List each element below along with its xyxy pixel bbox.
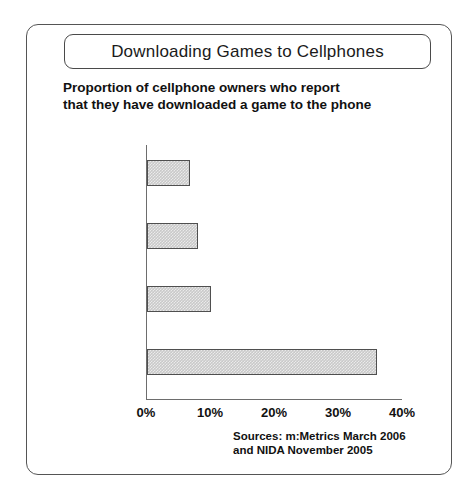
figure-frame: Downloading Games to Cellphones Proporti… [26,24,452,475]
x-tick-label-0: 0% [126,405,166,420]
x-tick-label-40: 40% [382,405,422,420]
x-tick-label-30: 30% [318,405,358,420]
source-line-1: Sources: m:Metrics March 2006 [233,429,406,443]
x-tick-label-10: 10% [190,405,230,420]
bar-germany [147,160,190,186]
x-tick-label-20: 20% [254,405,294,420]
source-note: Sources: m:Metrics March 2006 and NIDA N… [233,429,406,457]
bar-south-korea [147,349,377,375]
source-line-2: and NIDA November 2005 [233,443,406,457]
bar-chart-plot: Germany USA UK South Korea 0% 10% 20% 30… [27,25,453,476]
x-axis-line [146,399,402,400]
bar-uk [147,286,211,312]
bar-usa [147,223,198,249]
